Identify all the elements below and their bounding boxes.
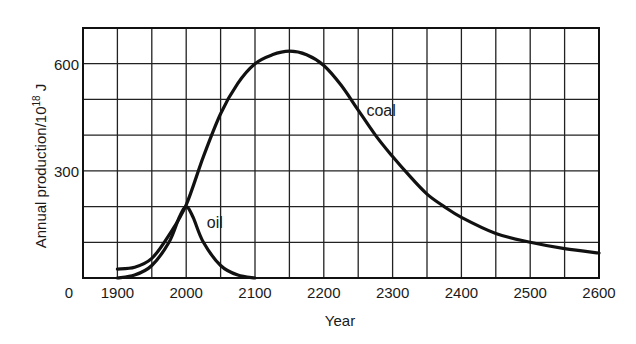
x-axis-ticks: 19002000210022002300240025002600 <box>101 284 616 301</box>
x-tick-label: 2300 <box>376 284 409 301</box>
y-axis-title-suffix: J <box>32 84 49 96</box>
x-tick-label: 2500 <box>514 284 547 301</box>
y-axis-title: Annual production/1018 J <box>31 84 49 249</box>
chart: coaloil 19002000210022002300240025002600… <box>0 0 636 344</box>
y-axis-title-prefix: Annual production/10 <box>32 107 49 249</box>
coal-label: coal <box>366 102 395 119</box>
x-axis-title: Year <box>325 312 355 329</box>
series-labels: coaloil <box>207 102 396 232</box>
x-tick-label: 2000 <box>170 284 203 301</box>
y-axis-title-exponent: 18 <box>31 95 42 107</box>
x-tick-label: 2600 <box>582 284 615 301</box>
y-tick-label: 300 <box>54 163 79 180</box>
x-tick-label: 1900 <box>101 284 134 301</box>
y-tick-label: 600 <box>54 56 79 73</box>
oil-label: oil <box>207 214 223 231</box>
x-tick-label: 2100 <box>238 284 271 301</box>
x-tick-label: 2200 <box>307 284 340 301</box>
x-tick-label: 2400 <box>445 284 478 301</box>
origin-label: 0 <box>65 284 73 301</box>
y-axis-ticks: 300600 <box>54 56 79 180</box>
